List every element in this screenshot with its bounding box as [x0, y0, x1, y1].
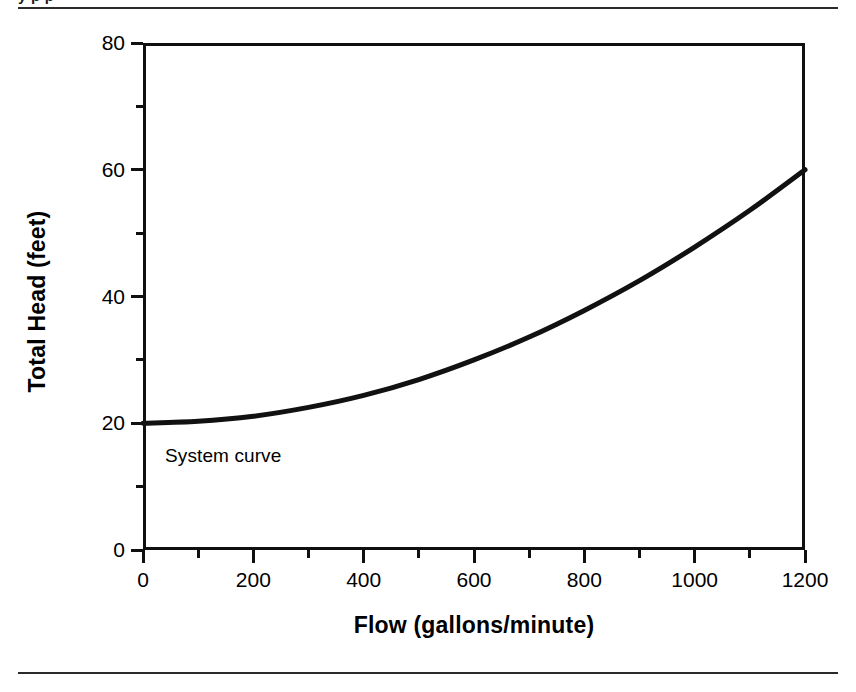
- y-tick-minor: [136, 485, 143, 488]
- x-tick-major: [252, 550, 255, 563]
- plot-area: 020406080 020040060080010001200 System c…: [143, 43, 805, 550]
- y-tick-major: [131, 168, 143, 171]
- x-tick-label: 200: [236, 568, 271, 592]
- y-tick-label: 60: [102, 158, 125, 182]
- y-tick-label: 80: [102, 31, 125, 55]
- x-tick-major: [804, 550, 807, 563]
- y-axis-title: Total Head (feet): [24, 172, 51, 432]
- y-tick-major: [131, 42, 143, 45]
- x-tick-major: [583, 550, 586, 563]
- x-tick-minor: [307, 550, 310, 558]
- x-tick-major: [693, 550, 696, 563]
- x-tick-major: [142, 550, 145, 563]
- x-tick-major: [362, 550, 365, 563]
- y-tick-minor: [136, 232, 143, 235]
- x-tick-minor: [417, 550, 420, 558]
- figure-bottom-rule: [18, 672, 838, 674]
- y-tick-label: 0: [113, 538, 125, 562]
- x-tick-major: [473, 550, 476, 563]
- y-tick-label: 40: [102, 285, 125, 309]
- x-tick-label: 1000: [671, 568, 718, 592]
- x-tick-minor: [197, 550, 200, 558]
- x-tick-minor: [528, 550, 531, 558]
- x-tick-label: 600: [456, 568, 491, 592]
- x-tick-minor: [638, 550, 641, 558]
- y-tick-label: 20: [102, 411, 125, 435]
- y-tick-minor: [136, 358, 143, 361]
- figure-chart: Total Head (feet) Flow (gallons/minute) …: [0, 0, 856, 692]
- x-tick-label: 0: [137, 568, 149, 592]
- series-line: [143, 170, 805, 424]
- y-tick-minor: [136, 105, 143, 108]
- x-tick-label: 800: [567, 568, 602, 592]
- x-axis-title: Flow (gallons/minute): [143, 612, 805, 639]
- system-curve-graphic: [143, 43, 805, 550]
- x-tick-minor: [748, 550, 751, 558]
- y-tick-major: [131, 295, 143, 298]
- x-tick-label: 400: [346, 568, 381, 592]
- x-tick-label: 1200: [782, 568, 829, 592]
